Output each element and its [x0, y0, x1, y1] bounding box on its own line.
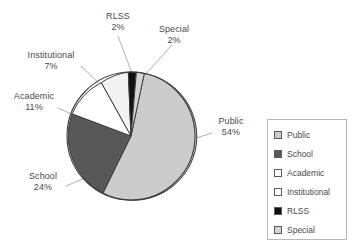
legend-item-rlss[interactable]: RLSS — [274, 201, 346, 220]
legend-item-school[interactable]: School — [274, 144, 346, 163]
legend-item-institutional[interactable]: Institutional — [274, 182, 346, 201]
legend-swatch-icon-school — [274, 150, 282, 158]
legend-label-rlss: RLSS — [287, 206, 309, 216]
slice-label-rlss: RLSS 2% — [93, 11, 143, 32]
leader-line-special — [143, 45, 172, 77]
chart-legend: Public School Academic Institutional RLS… — [267, 119, 347, 240]
pie-chart: RLSS 2% Special 2% Institutional 7% Acad… — [0, 0, 356, 250]
legend-swatch-icon-institutional — [274, 188, 282, 196]
legend-swatch-icon-rlss — [274, 207, 282, 215]
legend-item-academic[interactable]: Academic — [274, 163, 346, 182]
legend-item-public[interactable]: Public — [274, 125, 346, 144]
legend-label-school: School — [287, 149, 313, 159]
slice-label-school: School 24% — [19, 171, 67, 192]
legend-item-special[interactable]: Special — [274, 220, 346, 239]
leader-line-rlss — [118, 36, 133, 76]
legend-swatch-icon-public — [274, 131, 282, 139]
legend-swatch-icon-academic — [274, 169, 282, 177]
leader-line-school — [66, 178, 85, 186]
slice-label-special: Special 2% — [148, 24, 200, 45]
legend-label-public: Public — [287, 130, 310, 140]
legend-label-academic: Academic — [287, 168, 324, 178]
legend-swatch-icon-special — [274, 226, 282, 234]
legend-label-institutional: Institutional — [287, 187, 330, 197]
slice-label-public: Public 54% — [208, 116, 254, 137]
slice-label-institutional: Institutional 7% — [20, 50, 82, 71]
legend-label-special: Special — [287, 225, 315, 235]
pie-slices — [67, 72, 197, 200]
slice-label-academic: Academic 11% — [8, 91, 60, 112]
